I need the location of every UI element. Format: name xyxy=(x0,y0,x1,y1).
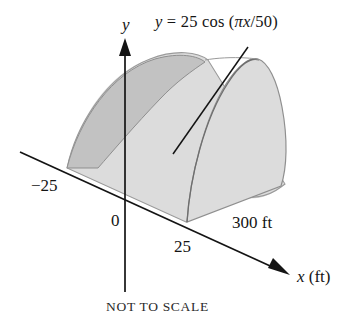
y-axis-label: y xyxy=(122,16,130,33)
equation-lhs: y xyxy=(155,12,163,31)
x-axis-arrowhead xyxy=(268,258,290,275)
equation-pi: π xyxy=(235,12,243,31)
y-axis-arrowhead xyxy=(119,38,131,56)
x-axis-variable: x xyxy=(297,267,305,286)
x-tick-25: 25 xyxy=(174,238,191,255)
equation-amplitude: 25 xyxy=(181,12,198,31)
x-axis-label: x (ft) xyxy=(297,268,331,285)
equation-function: cos xyxy=(202,12,225,31)
equation-label: y = 25 cos (πx/50) xyxy=(155,14,278,31)
not-to-scale-caption: NOT TO SCALE xyxy=(106,300,209,314)
tunnel-cosine-arch-figure: y = 25 cos (πx/50) y x (ft) −25 0 25 300… xyxy=(0,0,358,335)
equation-period-divisor: 50 xyxy=(255,12,272,31)
length-label-300ft: 300 ft xyxy=(232,214,272,231)
equation-variable: x xyxy=(243,12,251,31)
origin-label: 0 xyxy=(111,212,120,229)
equation-equals: = xyxy=(163,12,181,31)
x-tick-minus-25: −25 xyxy=(31,177,58,194)
equation-close-paren: ) xyxy=(272,12,278,31)
